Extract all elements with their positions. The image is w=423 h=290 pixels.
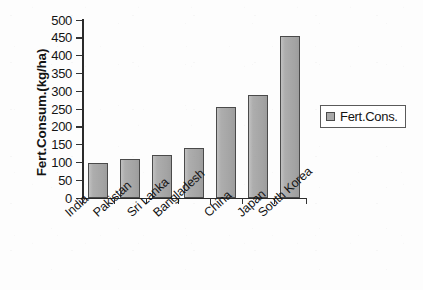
x-tick-label-china: China bbox=[202, 189, 234, 220]
y-tick-label: 200 bbox=[26, 120, 72, 133]
x-tick-mark bbox=[306, 198, 307, 204]
y-axis-tick-labels: 500 450 400 350 300 250 200 150 100 50 0 bbox=[26, 0, 72, 290]
y-tick-label: 450 bbox=[26, 31, 72, 44]
y-axis-line bbox=[82, 19, 84, 199]
bar-india[interactable] bbox=[88, 163, 108, 198]
bar-chart: Fert.Consum.(kg/ha) 500 450 400 350 300 … bbox=[0, 0, 423, 290]
y-tick-label: 500 bbox=[26, 14, 72, 27]
y-tick-label: 400 bbox=[26, 49, 72, 62]
y-tick-label: 50 bbox=[26, 174, 72, 187]
bar-china[interactable] bbox=[216, 107, 236, 198]
y-tick-label: 250 bbox=[26, 103, 72, 116]
y-tick-label: 150 bbox=[26, 138, 72, 151]
legend[interactable]: Fert.Cons. bbox=[320, 105, 406, 128]
legend-label-fert-cons: Fert.Cons. bbox=[340, 110, 398, 123]
y-tick-label: 300 bbox=[26, 85, 72, 98]
y-tick-label: 0 bbox=[26, 192, 72, 205]
y-tick-label: 350 bbox=[26, 67, 72, 80]
y-tick-label: 100 bbox=[26, 156, 72, 169]
bar-japan[interactable] bbox=[248, 95, 268, 198]
legend-swatch-fert-cons bbox=[326, 112, 335, 121]
